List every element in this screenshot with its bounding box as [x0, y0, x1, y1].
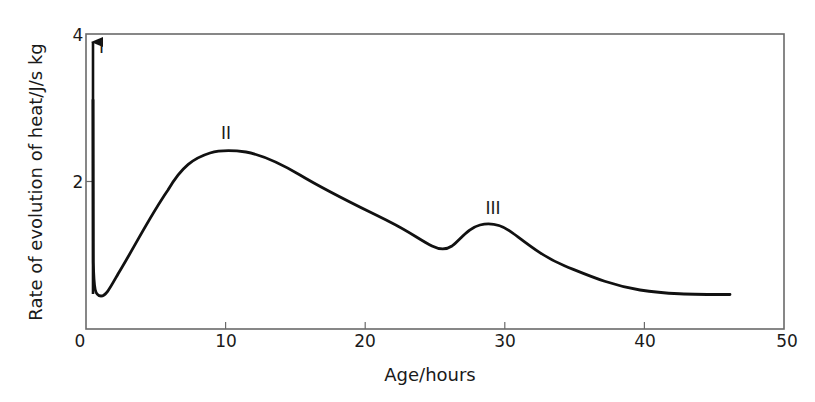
peak-label-ii: II	[221, 123, 231, 143]
heat-evolution-curve	[93, 100, 730, 296]
x-tick-label: 40	[634, 331, 656, 351]
heat-evolution-chart: 0 10 20 30 40 50 2 4 Age/hours Rate of e…	[0, 0, 815, 402]
x-tick-label: 50	[776, 331, 798, 351]
x-axis-ticks	[226, 322, 645, 329]
x-tick-label: 0	[75, 331, 86, 351]
y-tick-label: 4	[73, 25, 84, 45]
x-tick-label: 20	[354, 331, 376, 351]
x-axis-title: Age/hours	[384, 364, 476, 385]
x-tick-label: 10	[215, 331, 237, 351]
x-tick-labels: 0 10 20 30 40 50	[75, 331, 798, 351]
plot-frame	[86, 34, 784, 329]
y-tick-labels: 2 4	[73, 25, 84, 192]
x-tick-label: 30	[494, 331, 516, 351]
y-axis-title: Rate of evolution of heat/J/s kg	[25, 43, 46, 320]
peak-label-i: I	[99, 37, 104, 57]
y-tick-label: 2	[73, 172, 84, 192]
peak-label-iii: III	[485, 198, 500, 218]
